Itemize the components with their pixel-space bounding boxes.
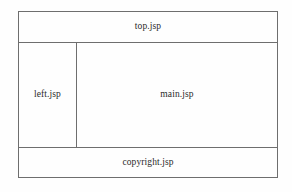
frame-region-main: main.jsp [77,43,277,147]
frame-region-bottom: copyright.jsp [19,148,277,177]
frame-region-left: left.jsp [19,43,77,147]
frameset-diagram: top.jsp left.jsp main.jsp copyright.jsp [18,11,278,178]
frame-label-top: top.jsp [135,22,161,32]
frame-region-top: top.jsp [19,12,277,43]
frame-label-copyright: copyright.jsp [122,158,173,168]
frame-label-main: main.jsp [160,90,193,100]
frame-region-middle-row: left.jsp main.jsp [19,43,277,148]
screenshot-root: top.jsp left.jsp main.jsp copyright.jsp [0,0,292,192]
frame-label-left: left.jsp [34,90,61,100]
